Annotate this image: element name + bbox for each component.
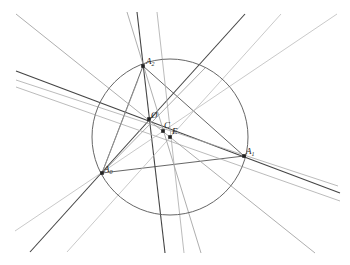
diagram-svg: A2A1A0ØCE <box>0 0 350 265</box>
label-a1: A1 <box>245 146 255 157</box>
construction-line <box>16 71 340 193</box>
label-a2: A2 <box>145 56 155 67</box>
label-c: C <box>164 120 171 130</box>
construction-line <box>102 156 244 173</box>
construction-line <box>15 14 337 231</box>
point-a2 <box>141 64 145 68</box>
construction-lines <box>15 12 340 253</box>
label-o: Ø <box>150 110 158 120</box>
label-e: E <box>171 126 178 136</box>
geometry-diagram: A2A1A0ØCE <box>0 0 350 265</box>
label-a0: A0 <box>103 164 113 175</box>
construction-line <box>102 80 138 173</box>
construction-line <box>30 14 245 252</box>
